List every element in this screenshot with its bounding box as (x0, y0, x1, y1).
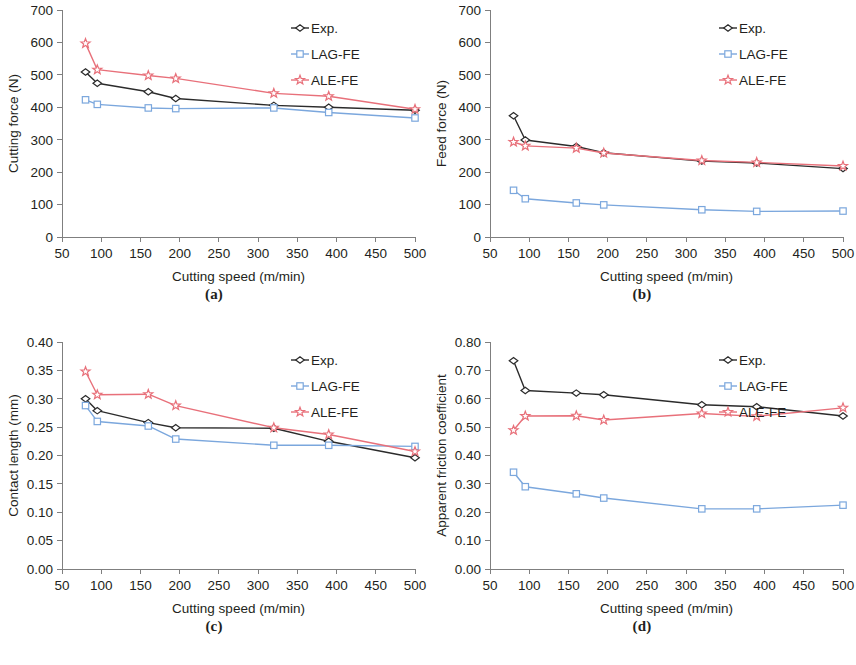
y-tick-label: 0.20 (27, 448, 53, 463)
series-line-exp (86, 72, 415, 110)
x-tick-label: 200 (596, 246, 619, 261)
y-tick-label: 0.80 (455, 335, 481, 350)
data-point-marker-diamond (144, 89, 153, 95)
data-point-marker-square (699, 506, 705, 512)
x-tick-label: 200 (168, 578, 191, 593)
x-tick-label: 250 (208, 246, 231, 261)
x-tick-label: 200 (168, 246, 191, 261)
legend-label: Exp. (739, 21, 766, 36)
x-tick-label: 450 (793, 578, 816, 593)
data-point-marker-square (573, 200, 579, 206)
data-point-marker-star (697, 409, 706, 418)
data-point-marker-square (326, 109, 332, 115)
data-point-marker-square (601, 495, 607, 501)
data-point-marker-star (171, 401, 180, 410)
y-tick-label: 0.05 (27, 533, 53, 548)
data-point-marker-star (723, 75, 732, 84)
legend-item-lag-fe: LAG-FE (291, 379, 360, 394)
series-line-lag-fe (86, 406, 415, 447)
data-point-marker-star (81, 367, 90, 376)
legend-item-ale-fe: ALE-FE (719, 73, 786, 88)
x-tick-label: 450 (793, 246, 816, 261)
series-line-ale-fe (86, 43, 415, 109)
series-line-exp (86, 399, 415, 458)
data-point-marker-star (324, 430, 333, 439)
x-tick-label: 350 (286, 246, 309, 261)
data-point-marker-diamond (171, 424, 180, 430)
chart-a-svg: 0100200300400500600700501001502002503003… (0, 0, 428, 288)
legend-label: LAG-FE (311, 47, 360, 62)
axis-lines (490, 10, 843, 237)
legend-label: Exp. (311, 353, 338, 368)
series-line-ale-fe (514, 142, 843, 166)
y-tick-label: 0.35 (27, 363, 53, 378)
series-line-exp (514, 361, 843, 416)
data-point-marker-square (94, 418, 100, 424)
data-point-marker-square (522, 196, 528, 202)
legend: Exp.LAG-FEALE-FE (719, 353, 788, 420)
legend-label: LAG-FE (739, 47, 788, 62)
x-tick-label: 150 (557, 246, 580, 261)
data-point-marker-star (599, 415, 608, 424)
y-tick-label: 0.20 (455, 505, 481, 520)
x-tick-label: 350 (714, 246, 737, 261)
y-axis-title: Feed force (N) (434, 80, 449, 167)
y-tick-label: 0.60 (455, 392, 481, 407)
data-point-marker-diamond (698, 402, 707, 408)
x-tick-label: 150 (129, 246, 152, 261)
legend: Exp.LAG-FEALE-FE (719, 21, 788, 88)
data-point-marker-star (838, 403, 847, 412)
legend-item-ale-fe: ALE-FE (719, 405, 786, 420)
x-tick-label: 350 (286, 578, 309, 593)
axis-lines (62, 10, 415, 237)
x-tick-label: 500 (404, 578, 427, 593)
x-tick-label: 150 (557, 578, 580, 593)
data-point-marker-star (521, 411, 530, 420)
x-tick-label: 450 (365, 246, 388, 261)
data-point-marker-square (173, 436, 179, 442)
data-point-marker-star (410, 104, 419, 113)
legend-label: Exp. (739, 353, 766, 368)
axis-lines (62, 342, 415, 569)
chart-d-plot: 0.000.100.200.300.400.500.600.700.805010… (428, 332, 856, 620)
x-tick-label: 50 (54, 578, 69, 593)
y-tick-label: 0.00 (455, 562, 481, 577)
data-point-marker-square (510, 469, 516, 475)
x-axis-title: Cutting speed (m/min) (600, 601, 733, 616)
y-tick-label: 0.70 (455, 363, 481, 378)
data-point-marker-square (754, 506, 760, 512)
data-point-marker-square (510, 187, 516, 193)
x-axis-title: Cutting speed (m/min) (172, 269, 305, 284)
data-point-marker-diamond (839, 413, 848, 419)
data-point-marker-square (725, 383, 731, 389)
data-point-marker-diamond (171, 95, 180, 101)
data-point-marker-square (573, 491, 579, 497)
data-point-marker-star (509, 137, 518, 146)
data-point-marker-star (324, 91, 333, 100)
data-point-marker-star (144, 71, 153, 80)
legend-item-ale-fe: ALE-FE (291, 405, 358, 420)
legend-label: LAG-FE (739, 379, 788, 394)
data-point-marker-star (93, 65, 102, 74)
data-point-marker-square (297, 51, 303, 57)
series-line-lag-fe (514, 190, 843, 211)
y-tick-label: 300 (30, 133, 53, 148)
y-tick-label: 0.40 (27, 335, 53, 350)
data-point-marker-star (269, 423, 278, 432)
y-tick-label: 0 (473, 230, 481, 245)
data-point-marker-diamond (296, 25, 305, 31)
x-tick-label: 150 (129, 578, 152, 593)
series-line-exp (514, 116, 843, 169)
y-tick-label: 700 (30, 3, 53, 18)
x-tick-label: 100 (90, 578, 113, 593)
data-point-marker-square (326, 442, 332, 448)
series-line-ale-fe (86, 372, 415, 452)
legend-item-lag-fe: LAG-FE (719, 47, 788, 62)
legend-label: ALE-FE (311, 405, 358, 420)
y-tick-label: 100 (458, 197, 481, 212)
data-point-marker-square (82, 402, 88, 408)
x-tick-label: 250 (636, 246, 659, 261)
data-point-marker-square (271, 105, 277, 111)
x-tick-label: 500 (832, 578, 855, 593)
legend-item-exp: Exp. (719, 353, 766, 368)
